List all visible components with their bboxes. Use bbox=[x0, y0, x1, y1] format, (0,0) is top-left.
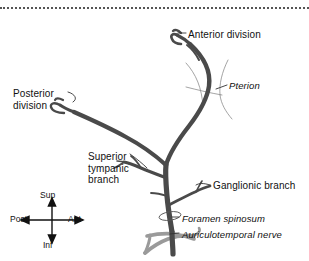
ganglionic-branch-vessel bbox=[169, 186, 210, 205]
compass-label-inferior: Inf bbox=[43, 241, 52, 250]
artery-trunk bbox=[166, 165, 172, 232]
label-pterion: Pterion bbox=[229, 80, 260, 92]
compass-label-superior: Sup bbox=[40, 191, 55, 200]
leader-ganglionic-branch bbox=[196, 184, 210, 186]
artery-through-foramen bbox=[172, 232, 173, 254]
label-auriculotemporal-nerve: Auriculotemporal nerve bbox=[182, 229, 282, 241]
label-anterior-division: Anterior division bbox=[188, 29, 261, 41]
posterior-division-tip bbox=[60, 105, 74, 112]
middle-meningeal-artery bbox=[51, 30, 210, 232]
label-posterior-division: Posterior division bbox=[13, 88, 54, 111]
compass-label-anterior: Ant bbox=[68, 215, 81, 224]
label-foramen-spinosum: Foramen spinosum bbox=[182, 213, 265, 225]
anterior-division-vessel bbox=[166, 44, 209, 165]
label-ganglionic-branch: Ganglionic branch bbox=[213, 180, 295, 192]
label-superior-tympanic-branch: Superior tympanic branch bbox=[88, 151, 129, 186]
leader-posterior-division bbox=[68, 92, 75, 102]
leader-pterion bbox=[216, 85, 227, 89]
anatomy-figure: Anterior division Pterion Posterior divi… bbox=[0, 0, 309, 261]
compass-label-posterior: Post bbox=[10, 215, 27, 224]
